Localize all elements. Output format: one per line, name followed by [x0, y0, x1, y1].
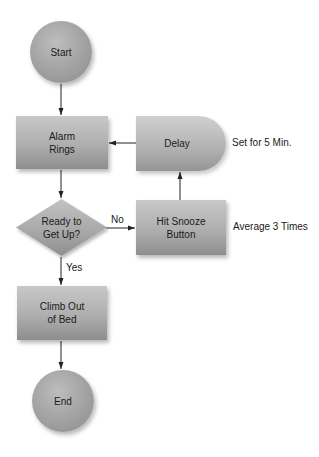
hit-snooze-label: Hit Snooze Button [157, 215, 206, 241]
ready-decision-label: Ready to Get Up? [16, 199, 107, 256]
start-node-label: Start [50, 46, 71, 59]
hit-snooze-label-line2: Button [167, 229, 196, 240]
end-node: End [32, 370, 94, 432]
delay-node: Delay [136, 116, 226, 171]
alarm-rings-label-line1: Alarm [49, 131, 75, 142]
climb-out-label-line2: of Bed [48, 314, 77, 325]
delay-annotation: Set for 5 Min. [232, 137, 291, 149]
delay-node-label: Delay [164, 137, 190, 150]
climb-out-label-line1: Climb Out [40, 301, 84, 312]
climb-out-label: Climb Out of Bed [40, 300, 84, 326]
alarm-rings-node: Alarm Rings [16, 116, 108, 169]
snooze-annotation: Average 3 Times [233, 221, 308, 233]
ready-decision-label-line1: Ready to [41, 216, 81, 227]
start-node: Start [30, 21, 92, 83]
hit-snooze-label-line1: Hit Snooze [157, 216, 206, 227]
climb-out-node: Climb Out of Bed [17, 286, 107, 340]
edge-label-no: No [111, 214, 124, 226]
alarm-rings-label: Alarm Rings [49, 130, 75, 156]
hit-snooze-node: Hit Snooze Button [136, 200, 226, 255]
end-node-label: End [54, 395, 72, 408]
ready-decision-label-line2: Get Up? [43, 229, 80, 240]
flowchart-canvas: Start Alarm Rings Delay [0, 0, 319, 457]
ready-decision-node: Ready to Get Up? [16, 199, 107, 256]
alarm-rings-label-line2: Rings [49, 144, 75, 155]
edge-label-yes: Yes [66, 262, 82, 274]
